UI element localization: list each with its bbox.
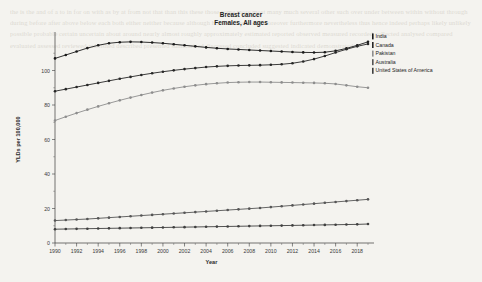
series-australia	[54, 198, 370, 222]
svg-text:20: 20	[44, 206, 50, 212]
svg-text:100: 100	[41, 68, 50, 74]
svg-text:Pakistan: Pakistan	[376, 50, 396, 56]
legend-item-india: India	[372, 33, 387, 39]
page-background: the is the and of a to in for on with as…	[0, 0, 482, 282]
svg-text:1998: 1998	[136, 248, 148, 254]
svg-text:0: 0	[47, 240, 50, 246]
svg-text:2002: 2002	[179, 248, 191, 254]
chart-container: Breast cancerFemales, All ages0204060801…	[0, 0, 482, 282]
svg-text:Females, All ages: Females, All ages	[214, 19, 268, 27]
legend-item-australia: Australia	[372, 59, 396, 65]
svg-text:2012: 2012	[287, 248, 299, 254]
svg-text:2010: 2010	[265, 248, 277, 254]
svg-text:Year: Year	[206, 259, 219, 265]
svg-text:United States of America: United States of America	[376, 67, 433, 73]
svg-text:Breast cancer: Breast cancer	[220, 11, 263, 18]
legend-item-united-states-of-america: United States of America	[372, 67, 433, 73]
svg-text:2016: 2016	[330, 248, 342, 254]
svg-text:YLDs per 100,000: YLDs per 100,000	[15, 116, 21, 162]
series-canada	[54, 43, 370, 93]
svg-text:80: 80	[44, 102, 50, 108]
svg-text:40: 40	[44, 171, 50, 177]
svg-text:2018: 2018	[351, 248, 363, 254]
svg-text:1990: 1990	[49, 248, 61, 254]
svg-text:Canada: Canada	[376, 42, 394, 48]
series-united-states-of-america	[54, 223, 370, 231]
svg-text:2000: 2000	[157, 248, 169, 254]
legend-item-pakistan: Pakistan	[372, 50, 396, 56]
svg-text:60: 60	[44, 137, 50, 143]
svg-text:1992: 1992	[71, 248, 83, 254]
legend-item-canada: Canada	[372, 42, 394, 48]
svg-text:1994: 1994	[92, 248, 104, 254]
svg-text:India: India	[376, 33, 387, 39]
svg-text:2004: 2004	[200, 248, 212, 254]
svg-text:2014: 2014	[308, 248, 320, 254]
svg-text:2008: 2008	[244, 248, 256, 254]
series-pakistan	[54, 81, 370, 122]
svg-text:1996: 1996	[114, 248, 126, 254]
svg-text:2006: 2006	[222, 248, 234, 254]
svg-text:Australia: Australia	[376, 59, 396, 65]
line-chart: Breast cancerFemales, All ages0204060801…	[0, 0, 482, 282]
